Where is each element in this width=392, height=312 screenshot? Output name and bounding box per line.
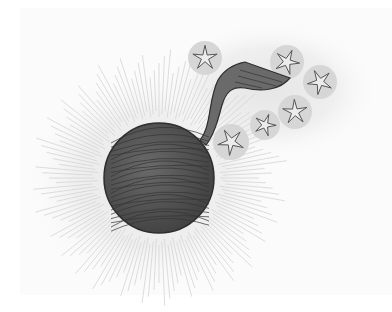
yarn-ball-sphere bbox=[104, 123, 214, 233]
yarn-ball-illustration bbox=[0, 0, 392, 312]
